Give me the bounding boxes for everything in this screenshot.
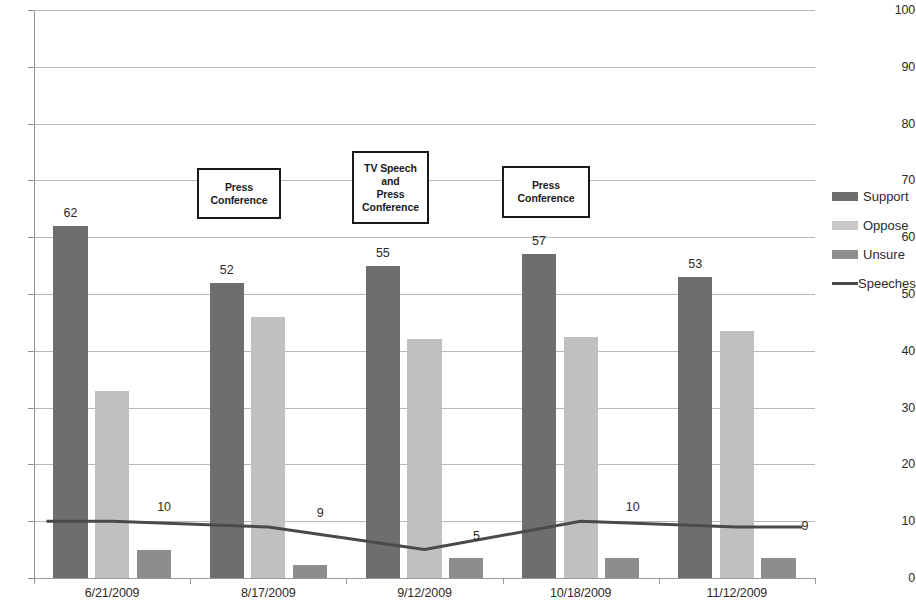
legend-swatch-oppose-icon: [832, 221, 858, 230]
bar-oppose-9/12/2009: [407, 339, 441, 578]
gridline-90: [34, 67, 815, 68]
bar-value-label-support-6/21/2009: 62: [63, 206, 77, 220]
bar-support-6/21/2009: [53, 226, 87, 578]
line-value-label-speeches-9/12/2009: 5: [473, 529, 480, 543]
bar-unsure-11/12/2009: [761, 558, 795, 578]
legend-label-speeches: Speeches: [858, 276, 916, 291]
bar-support-10/18/2009: [522, 254, 556, 578]
annotation-press-conference-1: Press Conference: [197, 168, 281, 219]
y-tick-label-80: 80: [885, 117, 915, 131]
bar-unsure-6/21/2009: [137, 550, 171, 578]
chart-legend: SupportOpposeUnsureSpeeches: [832, 182, 915, 298]
x-tick-mark-4: [659, 578, 660, 584]
legend-item-unsure[interactable]: Unsure: [832, 240, 915, 269]
y-tick-label-10: 10: [885, 514, 915, 528]
legend-label-unsure: Unsure: [863, 247, 905, 262]
bar-unsure-8/17/2009: [293, 565, 327, 578]
x-tick-mark-1: [190, 578, 191, 584]
legend-label-oppose: Oppose: [863, 218, 909, 233]
bar-value-label-support-9/12/2009: 55: [376, 246, 390, 260]
line-value-label-speeches-10/18/2009: 10: [626, 500, 640, 514]
y-tick-label-40: 40: [885, 344, 915, 358]
line-value-label-speeches-6/21/2009: 10: [157, 500, 171, 514]
x-tick-mark-2: [346, 578, 347, 584]
annotation-press-conference-1-text: Press Conference: [211, 181, 268, 207]
x-tick-label-6/21/2009: 6/21/2009: [85, 586, 140, 600]
annotation-press-conference-2-text: Press Conference: [518, 179, 575, 205]
x-tick-label-9/12/2009: 9/12/2009: [397, 586, 452, 600]
annotation-tv-speech-press-conference: TV Speech and Press Conference: [352, 151, 429, 224]
bar-support-9/12/2009: [366, 266, 400, 578]
x-tick-mark-3: [503, 578, 504, 584]
y-tick-label-30: 30: [885, 401, 915, 415]
legend-label-support: Support: [863, 189, 909, 204]
gridline-100: [34, 10, 815, 11]
line-value-label-speeches-8/17/2009: 9: [317, 506, 324, 520]
x-tick-label-11/12/2009: 11/12/2009: [707, 586, 768, 600]
annotation-tv-speech-press-conference-text: TV Speech and Press Conference: [362, 162, 419, 214]
y-tick-label-90: 90: [885, 60, 915, 74]
line-value-label-speeches-11/12/2009: 9: [801, 519, 808, 533]
gridline-80: [34, 124, 815, 125]
bar-unsure-10/18/2009: [605, 558, 639, 578]
gridline-0: [34, 578, 815, 579]
bar-oppose-10/18/2009: [564, 337, 598, 578]
bar-support-8/17/2009: [210, 283, 244, 578]
annotation-press-conference-2: Press Conference: [502, 166, 590, 218]
legend-item-support[interactable]: Support: [832, 182, 915, 211]
bar-value-label-support-8/17/2009: 52: [220, 263, 234, 277]
bar-value-label-support-11/12/2009: 53: [688, 257, 702, 271]
bar-value-label-support-10/18/2009: 57: [532, 234, 546, 248]
bar-oppose-8/17/2009: [251, 317, 285, 578]
gridline-60: [34, 237, 815, 238]
plot-area: [34, 10, 815, 578]
y-tick-label-0: 0: [885, 571, 915, 585]
bar-support-11/12/2009: [678, 277, 712, 578]
legend-item-speeches[interactable]: Speeches: [832, 269, 915, 298]
x-tick-mark-0: [34, 578, 35, 584]
legend-swatch-speeches-icon: [832, 282, 858, 285]
y-tick-label-20: 20: [885, 457, 915, 471]
bar-oppose-6/21/2009: [95, 391, 129, 578]
legend-swatch-support-icon: [832, 192, 858, 201]
bar-oppose-11/12/2009: [720, 331, 754, 578]
legend-item-oppose[interactable]: Oppose: [832, 211, 915, 240]
x-tick-label-10/18/2009: 10/18/2009: [550, 586, 612, 600]
bar-unsure-9/12/2009: [449, 558, 483, 578]
x-tick-label-8/17/2009: 8/17/2009: [241, 586, 296, 600]
legend-swatch-unsure-icon: [832, 250, 858, 259]
x-tick-mark-5: [815, 578, 816, 584]
y-tick-label-100: 100: [885, 3, 915, 17]
